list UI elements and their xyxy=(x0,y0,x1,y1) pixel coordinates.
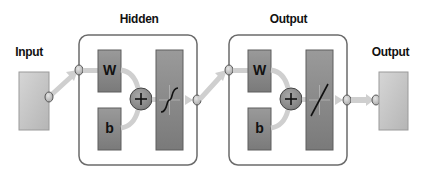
input-block xyxy=(19,72,49,130)
output-layer-label: Output xyxy=(270,11,308,26)
hidden-to-output-arrow xyxy=(201,70,227,98)
output-weight-label: W xyxy=(248,62,271,78)
output-block xyxy=(379,72,408,130)
output-layer-box xyxy=(225,35,351,165)
hidden-layer-label: Hidden xyxy=(120,11,159,26)
hidden-layer-box xyxy=(75,35,201,165)
hidden-bias-label: b xyxy=(98,120,121,136)
input-to-hidden-arrow xyxy=(45,70,78,102)
input-label: Input xyxy=(15,44,43,59)
output-bias-label: b xyxy=(248,120,271,136)
neural-network-diagram xyxy=(0,0,426,179)
output-layer-to-output-arrow xyxy=(351,94,380,106)
output-label: Output xyxy=(372,44,410,59)
hidden-weight-label: W xyxy=(98,62,121,78)
